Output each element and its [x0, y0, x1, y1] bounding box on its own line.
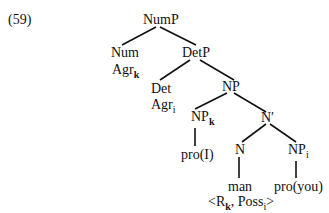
node-man: man	[228, 180, 252, 194]
feature-open: <R	[208, 194, 225, 209]
branch-nump-num	[122, 27, 156, 45]
agr-label: Agr	[151, 97, 173, 112]
index-k: k	[209, 116, 215, 127]
example-number: (59)	[8, 13, 31, 27]
feature-poss: , Poss	[231, 194, 264, 209]
node-n: N	[235, 143, 245, 157]
branch-detp-np	[200, 60, 234, 80]
branch-nump-detp	[160, 27, 196, 45]
branch-np-npk	[195, 93, 227, 109]
index-i: i	[306, 149, 309, 160]
index-i: i	[173, 104, 176, 115]
node-agr-k: Agrk	[112, 63, 139, 78]
branch-nbar-n	[242, 124, 266, 142]
node-detp: DetP	[182, 46, 210, 60]
node-nbar: N′	[261, 111, 274, 125]
node-nump: NumP	[143, 13, 179, 27]
node-agr-i: Agri	[151, 98, 176, 113]
index-k: k	[134, 69, 140, 80]
feature-bundle: <Rk, Possi>	[208, 195, 274, 210]
branch-nbar-npi	[270, 124, 296, 142]
node-num: Num	[111, 46, 139, 60]
node-pro-you: pro(you)	[274, 180, 323, 194]
index-i: i	[263, 201, 266, 212]
branch-detp-det	[160, 60, 190, 80]
index-k: k	[225, 201, 231, 212]
feature-close: >	[266, 194, 274, 209]
node-det: Det	[151, 82, 171, 96]
node-pro-i: pro(I)	[181, 148, 214, 162]
node-np-k: NPk	[191, 110, 214, 125]
agr-label: Agr	[112, 62, 134, 77]
node-np: NP	[222, 80, 240, 94]
node-np-i: NPi	[288, 143, 309, 158]
np-label: NP	[288, 142, 306, 157]
np-label: NP	[191, 109, 209, 124]
